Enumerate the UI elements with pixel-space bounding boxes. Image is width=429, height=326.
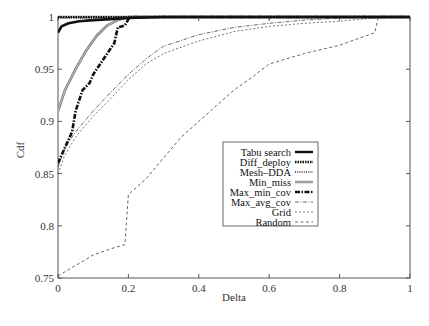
y-axis-ticks: 0.750.80.850.90.951 <box>35 11 410 284</box>
series-line-min-miss <box>58 17 410 111</box>
y-tick-label: 0.8 <box>40 220 54 232</box>
x-tick-label: 0 <box>55 282 61 294</box>
series-line-min-miss <box>58 17 410 111</box>
y-tick-label: 0.95 <box>35 63 55 75</box>
y-tick-label: 0.75 <box>35 272 55 284</box>
x-tick-label: 0.6 <box>262 282 276 294</box>
legend-label: Random <box>255 217 291 228</box>
x-tick-label: 1 <box>407 282 413 294</box>
x-tick-label: 0.8 <box>333 282 347 294</box>
y-tick-label: 0.85 <box>35 168 55 180</box>
y-axis-label: Cdf <box>14 141 26 158</box>
x-tick-label: 0.2 <box>122 282 136 294</box>
cdf-chart: 00.20.40.60.81 0.750.80.850.90.951 Delta… <box>0 0 429 326</box>
x-axis-label: Delta <box>222 291 246 303</box>
y-tick-label: 0.9 <box>40 115 54 127</box>
y-tick-label: 1 <box>49 11 55 23</box>
x-tick-label: 0.4 <box>192 282 206 294</box>
legend: Tabu searchDiff_deployMesh–DDAMin_missMa… <box>223 142 318 228</box>
